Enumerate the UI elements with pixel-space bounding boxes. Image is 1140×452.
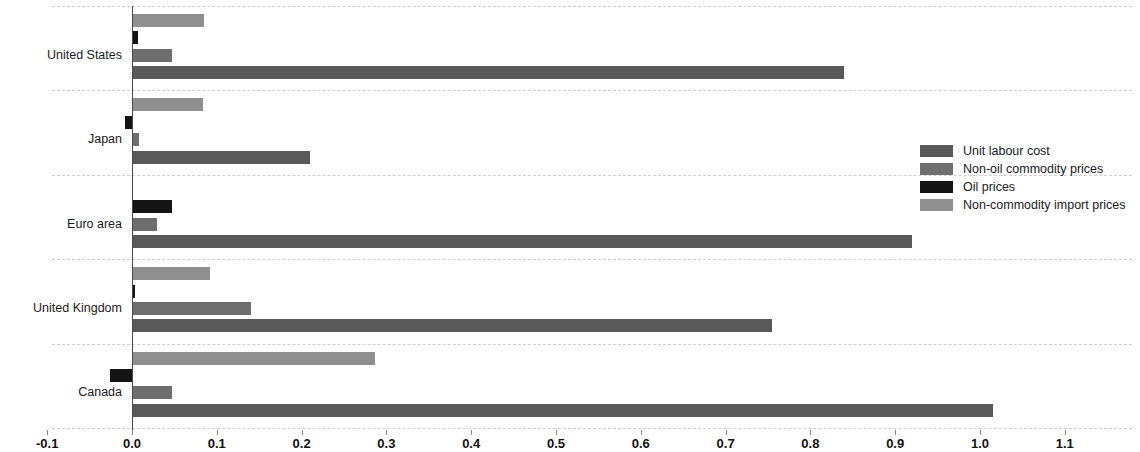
x-axis-tick [1065,430,1066,435]
legend-item[interactable]: Unit labour cost [920,142,1126,159]
bar [132,267,210,280]
x-axis-tick-label: 0.8 [780,436,840,451]
legend-label: Non-oil commodity prices [963,162,1103,176]
gridline [52,259,1132,260]
legend-label: Non-commodity import prices [963,198,1126,212]
bar [132,98,203,111]
legend-item[interactable]: Non-oil commodity prices [920,160,1126,177]
category-label: Japan [0,132,122,146]
bar [132,66,844,79]
bar [132,151,310,164]
x-axis-tick [217,430,218,435]
x-axis-tick [810,430,811,435]
x-axis-tick [980,430,981,435]
bar [132,302,251,315]
x-axis-tick-label: 0.5 [526,436,586,451]
x-axis-tick [471,430,472,435]
bar [132,14,204,27]
x-axis-tick [386,430,387,435]
x-axis-tick-label: 0.9 [865,436,925,451]
bar [132,200,172,213]
x-axis-tick-label: 0.1 [187,436,247,451]
x-axis-tick-label: 0.0 [102,436,162,451]
bar [132,235,912,248]
x-axis-tick-label: 0.3 [356,436,416,451]
x-axis-tick [641,430,642,435]
bar [132,49,172,62]
legend-label: Oil prices [963,180,1015,194]
bar [132,218,157,231]
category-label: United Kingdom [0,301,122,315]
x-axis-tick-label: 0.7 [696,436,756,451]
x-axis-tick [895,430,896,435]
legend-label: Unit labour cost [963,144,1050,158]
zero-axis-line [132,6,133,430]
legend-item[interactable]: Non-commodity import prices [920,196,1126,213]
x-axis-tick-label: 1.0 [950,436,1010,451]
gridline [52,90,1132,91]
bar [132,352,375,365]
bar [125,116,132,129]
x-axis-tick [302,430,303,435]
plot-area: United StatesJapanEuro areaUnited Kingdo… [0,0,1140,452]
bar [132,386,172,399]
legend-swatch-icon [920,199,953,211]
x-axis-tick-label: -0.1 [17,436,77,451]
chart-legend: Unit labour costNon-oil commodity prices… [920,142,1126,214]
gridline [52,428,1132,429]
x-axis-tick-label: 0.4 [441,436,501,451]
x-axis-tick-label: 0.2 [272,436,332,451]
x-axis-tick [726,430,727,435]
gridline [52,344,1132,345]
legend-swatch-icon [920,181,953,193]
legend-swatch-icon [920,163,953,175]
bar [110,369,132,382]
legend-item[interactable]: Oil prices [920,178,1126,195]
category-label: Canada [0,385,122,399]
x-axis-tick-label: 1.1 [1035,436,1095,451]
category-label: United States [0,48,122,62]
bar [132,319,772,332]
x-axis-tick [556,430,557,435]
bar-chart: United StatesJapanEuro areaUnited Kingdo… [0,0,1140,452]
x-axis-tick-label: 0.6 [611,436,671,451]
bar [132,404,993,417]
gridline [52,6,1132,7]
category-label: Euro area [0,217,122,231]
bar [132,133,139,146]
legend-swatch-icon [920,145,953,157]
x-axis-tick [47,430,48,435]
x-axis-tick [132,430,133,435]
